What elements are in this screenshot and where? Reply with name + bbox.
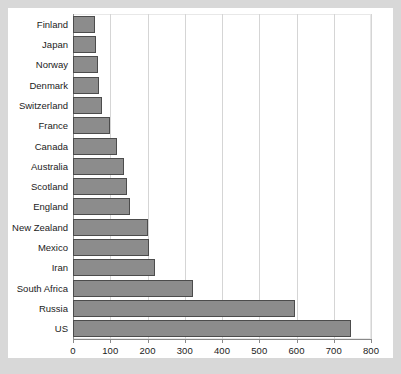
- bar-row[interactable]: [73, 138, 371, 155]
- bar-row[interactable]: [73, 178, 371, 195]
- tick-label-400: 400: [214, 345, 230, 356]
- bar-iran[interactable]: [73, 259, 155, 276]
- bar-australia[interactable]: [73, 158, 124, 175]
- tick-label-0: 0: [70, 345, 75, 356]
- category-label-canada: Canada: [35, 138, 68, 155]
- bar-row[interactable]: [73, 117, 371, 134]
- category-label-us: US: [55, 320, 68, 337]
- tick-mark-600: [297, 339, 298, 343]
- category-label-new-zealand: New Zealand: [12, 219, 68, 236]
- bar-row[interactable]: [73, 158, 371, 175]
- tick-mark-200: [148, 339, 149, 343]
- bar-switzerland[interactable]: [73, 97, 102, 114]
- bar-row[interactable]: [73, 36, 371, 53]
- bar-row[interactable]: [73, 280, 371, 297]
- bar-row[interactable]: [73, 198, 371, 215]
- category-axis-labels: FinlandJapanNorwayDenmarkSwitzerlandFran…: [8, 14, 71, 339]
- bar-scotland[interactable]: [73, 178, 127, 195]
- value-axis: 0100200300400500600700800: [73, 339, 371, 359]
- bar-norway[interactable]: [73, 56, 98, 73]
- category-label-france: France: [38, 117, 68, 134]
- bar-new-zealand[interactable]: [73, 219, 148, 236]
- category-label-scotland: Scotland: [31, 178, 68, 195]
- bar-canada[interactable]: [73, 138, 117, 155]
- tick-mark-0: [73, 339, 74, 343]
- bar-row[interactable]: [73, 97, 371, 114]
- tick-mark-300: [185, 339, 186, 343]
- category-label-russia: Russia: [39, 300, 68, 317]
- bar-us[interactable]: [73, 320, 351, 337]
- gridline-800: [371, 14, 372, 339]
- bar-mexico[interactable]: [73, 239, 149, 256]
- category-label-norway: Norway: [36, 56, 68, 73]
- bar-row[interactable]: [73, 16, 371, 33]
- bar-row[interactable]: [73, 219, 371, 236]
- tick-mark-700: [334, 339, 335, 343]
- tick-mark-500: [259, 339, 260, 343]
- tick-mark-400: [222, 339, 223, 343]
- tick-mark-800: [371, 339, 372, 343]
- category-label-south-africa: South Africa: [17, 280, 68, 297]
- bar-denmark[interactable]: [73, 77, 99, 94]
- tick-label-500: 500: [251, 345, 267, 356]
- bar-row[interactable]: [73, 300, 371, 317]
- tick-label-300: 300: [177, 345, 193, 356]
- tick-label-600: 600: [289, 345, 305, 356]
- tick-label-800: 800: [363, 345, 379, 356]
- tick-label-200: 200: [140, 345, 156, 356]
- plot-area: [73, 14, 371, 339]
- category-label-australia: Australia: [31, 158, 68, 175]
- category-label-finland: Finland: [37, 16, 68, 33]
- category-label-mexico: Mexico: [38, 239, 68, 256]
- bar-row[interactable]: [73, 259, 371, 276]
- bar-france[interactable]: [73, 117, 110, 134]
- tick-mark-100: [110, 339, 111, 343]
- bar-row[interactable]: [73, 239, 371, 256]
- bar-series: [73, 14, 371, 339]
- bar-row[interactable]: [73, 320, 371, 337]
- category-label-denmark: Denmark: [29, 77, 68, 94]
- chart-figure: FinlandJapanNorwayDenmarkSwitzerlandFran…: [8, 8, 393, 358]
- bar-finland[interactable]: [73, 16, 95, 33]
- bar-russia[interactable]: [73, 300, 295, 317]
- bar-japan[interactable]: [73, 36, 96, 53]
- tick-label-100: 100: [102, 345, 118, 356]
- category-label-japan: Japan: [42, 36, 68, 53]
- tick-label-700: 700: [326, 345, 342, 356]
- category-label-england: England: [33, 198, 68, 215]
- category-label-switzerland: Switzerland: [19, 97, 68, 114]
- category-label-iran: Iran: [52, 259, 68, 276]
- bar-row[interactable]: [73, 77, 371, 94]
- bar-south-africa[interactable]: [73, 280, 193, 297]
- bar-england[interactable]: [73, 198, 130, 215]
- bar-row[interactable]: [73, 56, 371, 73]
